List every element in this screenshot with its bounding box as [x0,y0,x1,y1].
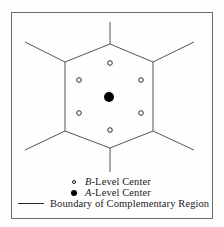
legend-suffix-b: -Level Center [92,176,151,187]
legend-label-boundary: Boundary of Complementary Region [44,198,209,209]
open-circle-icon [68,180,80,184]
legend-item-boundary: Boundary of Complementary Region [12,198,212,209]
legend-label-a-level: A-Level Center [80,187,151,198]
figure-root: B-Level Center A-Level Center Boundary o… [0,0,224,227]
filled-circle-icon [68,190,80,196]
legend-label-b-level: B-Level Center [80,176,151,187]
legend: B-Level Center A-Level Center Boundary o… [12,176,212,209]
legend-item-a-level: A-Level Center [12,187,212,198]
boundary-line-icon [18,203,44,204]
legend-item-b-level: B-Level Center [12,176,212,187]
legend-suffix-a: -Level Center [92,187,151,198]
